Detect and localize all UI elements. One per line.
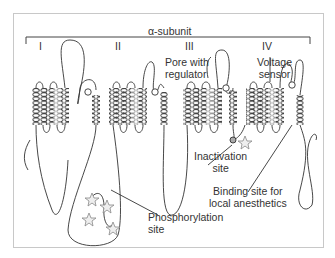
domain-label-iv: IV [262, 40, 272, 52]
voltage-sensor-label: Voltage sensor [257, 56, 292, 80]
alpha-subunit-title: α-subunit [148, 25, 191, 37]
phosphorylation-site-label: Phosphorylation site [148, 211, 223, 235]
inactivation-site-label: Inactivation site [194, 150, 247, 174]
domain-label-ii: II [115, 40, 121, 52]
binding-site-label: Binding site for local anesthetics [209, 185, 287, 209]
transmembrane-helices [32, 88, 304, 125]
pore-label: Pore with regulator [165, 56, 209, 80]
domain-label-i: I [39, 40, 42, 52]
domain-label-iii: III [185, 40, 194, 52]
